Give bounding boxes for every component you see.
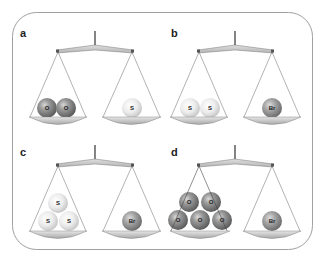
atom-sulfur: S <box>200 98 220 118</box>
svg-text:O: O <box>187 199 192 205</box>
left-pan <box>170 231 230 239</box>
beam <box>198 45 273 53</box>
atom-sulfur: S <box>180 98 200 118</box>
panel-label: a <box>20 27 27 39</box>
atom-oxygen: O <box>37 98 57 118</box>
atom-sulfur: S <box>59 211 79 231</box>
atom-oxygen: O <box>179 192 199 212</box>
panel-a: a O O S <box>20 27 161 125</box>
right-pan <box>102 117 161 125</box>
atom-sulfur: S <box>122 98 142 118</box>
atom-sulfur: S <box>38 211 58 231</box>
svg-text:Br: Br <box>269 105 276 111</box>
atom-bromine: Br <box>122 211 142 231</box>
panel-label: b <box>171 27 178 39</box>
beam <box>198 159 273 167</box>
right-pan <box>243 231 301 239</box>
panel-d: d O O O O O Br <box>168 145 301 239</box>
svg-text:S: S <box>67 218 71 224</box>
svg-text:O: O <box>45 105 50 111</box>
atom-bromine: Br <box>262 211 282 231</box>
left-pan <box>29 117 87 125</box>
svg-text:Br: Br <box>129 218 136 224</box>
svg-text:S: S <box>46 218 50 224</box>
svg-text:O: O <box>64 105 69 111</box>
atom-sulfur: S <box>48 193 68 213</box>
balance-scale: S S Br <box>170 31 301 125</box>
panel-c: c S S S Br <box>20 145 161 239</box>
balance-scale: O O S <box>29 31 161 125</box>
panel-b: b S S Br <box>170 27 301 125</box>
figure: a O O S b <box>0 0 323 262</box>
atom-oxygen: O <box>190 210 210 230</box>
svg-text:O: O <box>209 199 214 205</box>
svg-text:S: S <box>56 200 60 206</box>
atom-oxygen: O <box>56 98 76 118</box>
atom-bromine: Br <box>262 98 282 118</box>
svg-text:S: S <box>208 105 212 111</box>
svg-text:Br: Br <box>269 218 276 224</box>
svg-text:S: S <box>130 105 134 111</box>
balance-diagram: a O O S b <box>0 0 323 262</box>
balance-scale: S S S Br <box>29 145 161 239</box>
balance-scale: O O O O O Br <box>168 145 301 239</box>
beam-end <box>131 50 134 53</box>
atom-oxygen: O <box>201 192 221 212</box>
beam <box>57 45 133 53</box>
right-pan <box>102 231 161 239</box>
svg-text:S: S <box>188 105 192 111</box>
panel-label: c <box>20 146 26 158</box>
left-pan <box>29 231 87 239</box>
beam-end <box>56 50 59 53</box>
panel-label: d <box>171 146 178 158</box>
left-pan <box>170 117 228 125</box>
svg-text:O: O <box>198 217 203 223</box>
beam <box>57 159 133 167</box>
atom-oxygen: O <box>168 210 188 230</box>
right-pan <box>243 117 301 125</box>
